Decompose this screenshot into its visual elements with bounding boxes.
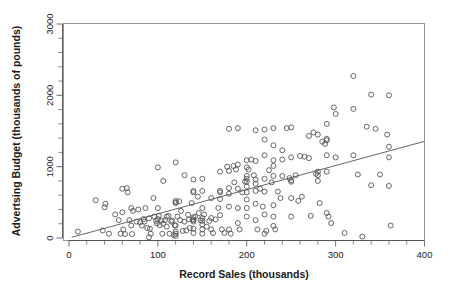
chart-canvas: 0100200300400 0100020003000 Record Sales…	[0, 0, 453, 297]
data-point	[315, 132, 320, 137]
x-axis-tick-labels: 0100200300400	[66, 249, 432, 260]
data-point	[129, 223, 134, 228]
data-point	[317, 201, 322, 206]
data-point	[184, 228, 189, 233]
x-axis-title: Record Sales (thousands)	[179, 268, 309, 280]
x-tick-label: 0	[66, 249, 71, 260]
data-point	[280, 148, 285, 153]
data-point	[234, 167, 239, 172]
data-point	[342, 231, 347, 236]
data-point	[271, 143, 276, 148]
data-point	[186, 212, 191, 217]
data-point	[351, 74, 356, 79]
data-point	[196, 211, 201, 216]
data-point	[216, 206, 221, 211]
x-tick-label: 200	[239, 249, 255, 260]
data-point	[253, 218, 258, 223]
data-point	[244, 197, 249, 202]
data-point	[324, 153, 329, 158]
y-axis-tick-labels: 0100020003000	[44, 13, 55, 240]
data-point	[200, 188, 205, 193]
data-point	[278, 196, 283, 201]
data-point	[386, 144, 391, 149]
data-point	[373, 126, 378, 131]
data-point	[324, 121, 329, 126]
data-point	[195, 194, 200, 199]
data-point	[331, 105, 336, 110]
data-point	[271, 158, 276, 163]
data-point	[136, 207, 141, 212]
data-point	[222, 231, 227, 236]
x-tick-label: 300	[328, 249, 344, 260]
data-point	[106, 231, 111, 236]
data-point	[120, 210, 125, 215]
data-point	[218, 169, 223, 174]
data-point	[235, 186, 240, 191]
y-tick-label: 0	[44, 235, 55, 240]
data-point	[364, 124, 369, 129]
data-point	[200, 176, 205, 181]
data-point	[237, 227, 242, 232]
data-point	[235, 206, 240, 211]
data-point	[235, 221, 240, 226]
scatterplot-figure: 0100200300400 0100020003000 Record Sales…	[0, 0, 453, 297]
data-point	[178, 208, 183, 213]
data-point	[262, 153, 267, 158]
data-point	[369, 92, 374, 97]
data-point	[262, 212, 267, 217]
data-point	[308, 213, 313, 218]
data-point	[116, 218, 121, 223]
data-point	[113, 212, 118, 217]
data-point	[306, 156, 311, 161]
data-point	[351, 153, 356, 158]
y-axis-ticks	[57, 24, 63, 238]
data-point	[75, 229, 80, 234]
data-point	[299, 194, 304, 199]
data-point	[218, 213, 223, 218]
y-axis-title: Advertsing Budget (thousands of pounds)	[10, 26, 22, 237]
data-point	[244, 214, 249, 219]
data-point	[280, 173, 285, 178]
data-point	[191, 177, 196, 182]
data-point	[155, 165, 160, 170]
data-point	[173, 160, 178, 165]
data-point	[271, 214, 276, 219]
data-point	[253, 128, 258, 133]
data-point	[235, 162, 240, 167]
data-point	[369, 183, 374, 188]
data-point	[289, 196, 294, 201]
data-point	[103, 201, 108, 206]
data-point	[386, 93, 391, 98]
data-point	[262, 137, 267, 142]
data-point	[386, 183, 391, 188]
data-point	[244, 184, 249, 189]
data-point	[271, 163, 276, 168]
data-point	[262, 176, 267, 181]
data-point	[232, 180, 237, 185]
data-point	[271, 173, 276, 178]
data-point	[355, 172, 360, 177]
data-point	[262, 189, 267, 194]
data-point	[333, 155, 338, 160]
data-point	[378, 172, 383, 177]
data-point	[200, 206, 205, 211]
data-point	[351, 106, 356, 111]
data-point	[386, 155, 391, 160]
data-point	[289, 155, 294, 160]
data-point	[275, 189, 280, 194]
data-point	[151, 196, 156, 201]
data-point	[388, 223, 393, 228]
data-point	[271, 203, 276, 208]
data-point	[226, 186, 231, 191]
data-point	[329, 221, 334, 226]
data-point	[175, 214, 180, 219]
y-tick-label: 1000	[44, 156, 55, 177]
data-point	[360, 234, 365, 239]
data-point	[253, 201, 258, 206]
y-axis: 0100020003000	[44, 13, 63, 240]
data-point	[333, 111, 338, 116]
data-point	[280, 157, 285, 162]
data-point	[244, 206, 249, 211]
data-point	[324, 169, 329, 174]
data-point	[102, 205, 107, 210]
